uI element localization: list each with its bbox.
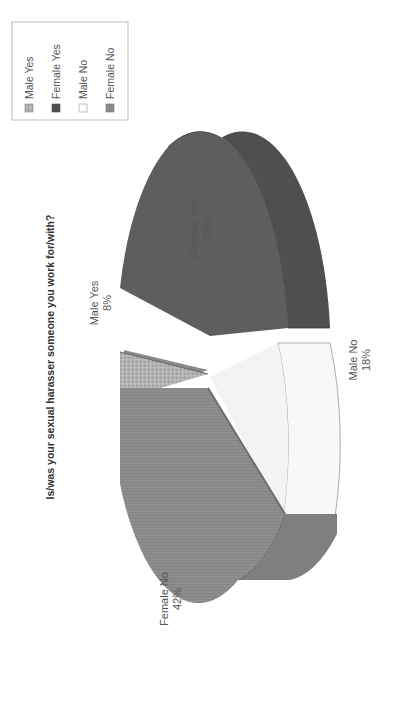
- svg-text:8%: 8%: [101, 295, 113, 311]
- chart-title: Is/was your sexual harasser someone you …: [44, 215, 56, 500]
- data-label-male-yes: Male Yes 8%: [88, 280, 113, 325]
- svg-text:Female Yes: Female Yes: [50, 44, 62, 99]
- slice-female-yes: [120, 131, 330, 336]
- legend-swatch-female-yes: [52, 104, 60, 112]
- svg-text:Female No: Female No: [104, 47, 116, 99]
- legend-item-male-no: Male No: [77, 60, 89, 112]
- svg-text:32%: 32%: [201, 218, 213, 240]
- legend: Male Yes Female Yes Male No Female No: [12, 22, 128, 120]
- data-label-male-no: Male No 18%: [347, 340, 372, 381]
- svg-text:Female Yes: Female Yes: [188, 200, 200, 258]
- svg-text:Male Yes: Male Yes: [23, 56, 35, 99]
- svg-text:Female No: Female No: [158, 572, 170, 626]
- svg-text:42%: 42%: [171, 588, 183, 610]
- svg-text:Male Yes: Male Yes: [88, 280, 100, 325]
- svg-text:18%: 18%: [360, 349, 372, 371]
- legend-swatch-male-no: [79, 104, 87, 112]
- chart-canvas: Is/was your sexual harasser someone you …: [0, 0, 405, 714]
- pie-chart: Is/was your sexual harasser someone you …: [0, 0, 405, 714]
- legend-swatch-female-no: [106, 104, 114, 112]
- svg-text:Male No: Male No: [347, 340, 359, 381]
- svg-text:Male No: Male No: [77, 60, 89, 99]
- legend-swatch-male-yes: [25, 104, 33, 112]
